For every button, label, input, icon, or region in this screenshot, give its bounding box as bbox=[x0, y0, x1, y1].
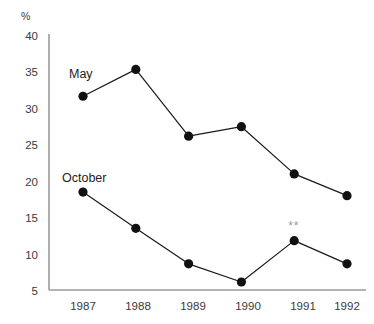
data-point bbox=[342, 191, 351, 200]
data-point bbox=[342, 259, 351, 268]
y-tick-label-25: 25 bbox=[25, 139, 38, 151]
y-tick-label-30: 30 bbox=[25, 103, 38, 115]
y-tick-label-40: 40 bbox=[25, 30, 38, 42]
data-point bbox=[78, 92, 87, 101]
series-label-october: October bbox=[62, 171, 106, 185]
data-point bbox=[131, 224, 140, 233]
series-may-line bbox=[83, 69, 347, 195]
data-point bbox=[290, 169, 299, 178]
y-axis-unit-label: % bbox=[21, 10, 30, 22]
series-may bbox=[78, 65, 351, 200]
line-chart: % 40 35 30 25 20 15 10 5 1987 1988 1989 … bbox=[0, 0, 374, 324]
x-tick-label-1992: 1992 bbox=[334, 300, 360, 312]
series-may-points bbox=[78, 65, 351, 200]
series-october-points bbox=[78, 187, 351, 286]
significance-annotation: ** bbox=[288, 219, 299, 233]
data-point bbox=[78, 187, 87, 196]
series-label-may: May bbox=[69, 67, 93, 81]
y-tick-label-10: 10 bbox=[25, 249, 38, 261]
y-tick-label-5: 5 bbox=[32, 285, 38, 297]
x-tick-label-1990: 1990 bbox=[235, 300, 261, 312]
x-tick-label-1991: 1991 bbox=[290, 300, 316, 312]
y-tick-label-35: 35 bbox=[25, 66, 38, 78]
series-october-line bbox=[83, 192, 347, 282]
series-october bbox=[78, 187, 351, 286]
y-tick-label-15: 15 bbox=[25, 212, 38, 224]
data-point bbox=[237, 277, 246, 286]
data-point bbox=[237, 122, 246, 131]
x-tick-label-1987: 1987 bbox=[70, 300, 96, 312]
data-point bbox=[131, 65, 140, 74]
chart-plot-area: % 40 35 30 25 20 15 10 5 1987 1988 1989 … bbox=[0, 0, 374, 324]
data-point bbox=[184, 132, 193, 141]
x-tick-label-1988: 1988 bbox=[125, 300, 151, 312]
data-point bbox=[290, 236, 299, 245]
data-point bbox=[184, 259, 193, 268]
x-tick-label-1989: 1989 bbox=[180, 300, 206, 312]
y-tick-label-20: 20 bbox=[25, 176, 38, 188]
